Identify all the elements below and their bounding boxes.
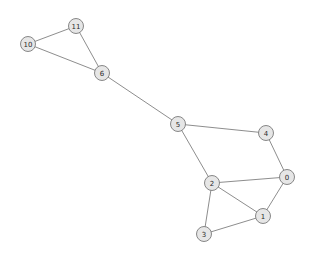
graph-node-circle-2[interactable] (205, 176, 220, 191)
graph-edge-5-4 (178, 124, 266, 133)
graph-node-circle-11[interactable] (69, 19, 84, 34)
graph-node-3[interactable]: 3 (197, 227, 212, 242)
edge-layer (28, 26, 287, 234)
graph-node-circle-10[interactable] (21, 37, 36, 52)
graph-node-2[interactable]: 2 (205, 176, 220, 191)
graph-node-circle-5[interactable] (171, 117, 186, 132)
graph-edge-3-1 (204, 216, 263, 234)
graph-canvas: 01234561011 (0, 0, 316, 254)
graph-node-circle-6[interactable] (95, 66, 110, 81)
node-layer: 01234561011 (21, 19, 295, 242)
graph-edge-2-0 (212, 177, 287, 183)
graph-node-0[interactable]: 0 (280, 170, 295, 185)
graph-edge-5-2 (178, 124, 212, 183)
graph-node-circle-0[interactable] (280, 170, 295, 185)
graph-svg: 01234561011 (0, 0, 316, 254)
graph-node-circle-1[interactable] (256, 209, 271, 224)
graph-node-circle-4[interactable] (259, 126, 274, 141)
graph-edge-11-6 (76, 26, 102, 73)
graph-node-6[interactable]: 6 (95, 66, 110, 81)
graph-node-10[interactable]: 10 (21, 37, 36, 52)
graph-node-circle-3[interactable] (197, 227, 212, 242)
graph-edge-6-5 (102, 73, 178, 124)
graph-node-4[interactable]: 4 (259, 126, 274, 141)
graph-edge-10-6 (28, 44, 102, 73)
graph-node-5[interactable]: 5 (171, 117, 186, 132)
graph-node-11[interactable]: 11 (69, 19, 84, 34)
graph-edge-2-1 (212, 183, 263, 216)
graph-node-1[interactable]: 1 (256, 209, 271, 224)
